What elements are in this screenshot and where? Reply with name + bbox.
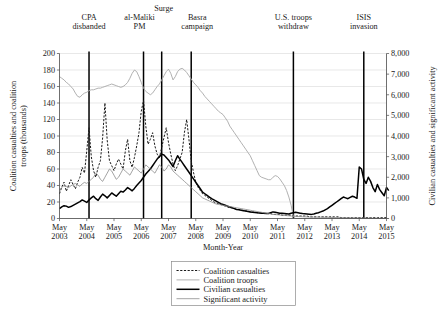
y-tick-label-left: 120 <box>43 115 55 124</box>
y-tick-label-left: 180 <box>43 66 55 75</box>
event-label-surge: Surge <box>154 4 173 13</box>
y-tick-label-left: 20 <box>47 198 55 207</box>
y-tick-label-left: 140 <box>43 99 55 108</box>
x-tick-label-month: May <box>79 223 95 232</box>
y-tick-label-right: 4,000 <box>391 132 409 141</box>
event-label-cpa-disbanded: disbanded <box>72 22 105 31</box>
x-tick-label-year: 2012 <box>297 232 313 241</box>
y-tick-label-right: 6,000 <box>391 91 409 100</box>
event-label-al-maliki-pm: PM <box>134 22 147 31</box>
figure-container: 020406080100120140160180200 01,0002,0003… <box>0 0 447 333</box>
legend-label-civilian-casualties: Civilian casualties <box>204 285 266 294</box>
x-tick-label-year: 2008 <box>188 232 204 241</box>
y-tick-label-left: 100 <box>43 132 55 141</box>
y-tick-label-left: 160 <box>43 82 55 91</box>
event-label-isis-invasion: invasion <box>350 22 378 31</box>
y-tick-label-right: 1,000 <box>391 194 409 203</box>
chart-canvas: 020406080100120140160180200 01,0002,0003… <box>0 0 447 333</box>
x-tick-label-month: May <box>215 223 231 232</box>
y-tick-label-left: 60 <box>47 165 55 174</box>
x-tick-label-month: May <box>324 223 340 232</box>
event-label-isis-invasion: ISIS <box>357 13 372 22</box>
event-label-basra-campaign: campaign <box>181 22 213 31</box>
x-tick-label-month: May <box>106 223 122 232</box>
y-axis-right-title: Civilian casualties and significant acti… <box>428 66 437 206</box>
y-tick-label-right: 2,000 <box>391 173 409 182</box>
y-tick-label-right: 5,000 <box>391 111 409 120</box>
event-label-cpa-disbanded: CPA <box>81 13 96 22</box>
x-tick-label-month: May <box>52 223 68 232</box>
x-tick-label-month: May <box>134 223 150 232</box>
y-tick-label-right: 7,000 <box>391 70 409 79</box>
x-tick-label-month: May <box>243 223 259 232</box>
x-tick-label-month: May <box>188 223 204 232</box>
legend-label-significant-activity: Significant activity <box>204 295 269 304</box>
y-tick-label-right: 8,000 <box>391 49 409 58</box>
x-axis-title: Month-Year <box>203 243 243 252</box>
y-axis-left-title-line2: troops (thousands) <box>19 105 28 167</box>
y-tick-label-right: 3,000 <box>391 153 409 162</box>
x-tick-label-month: May <box>161 223 177 232</box>
x-tick-label-month: May <box>270 223 286 232</box>
event-label-u-s-troops-withdraw: withdraw <box>278 22 309 31</box>
x-tick-label-year: 2005 <box>106 232 122 241</box>
y-tick-label-left: 80 <box>47 148 55 157</box>
x-tick-label-year: 2009 <box>215 232 231 241</box>
x-tick-label-year: 2013 <box>324 232 340 241</box>
y-tick-label-left: 200 <box>43 49 55 58</box>
event-label-u-s-troops-withdraw: U.S. troops <box>275 13 312 22</box>
x-tick-label-year: 2006 <box>133 232 149 241</box>
x-tick-label-year: 2003 <box>51 232 67 241</box>
x-tick-label-year: 2014 <box>351 232 367 241</box>
event-label-basra-campaign: Basra <box>188 13 207 22</box>
x-tick-label-year: 2010 <box>242 232 258 241</box>
chart-legend: Coalition casualtiesCoalition troopsCivi… <box>172 262 296 306</box>
x-tick-label-year: 2004 <box>79 232 95 241</box>
x-tick-label-year: 2011 <box>269 232 285 241</box>
x-tick-label-month: May <box>297 223 313 232</box>
legend-label-coalition-troops: Coalition troops <box>204 276 258 285</box>
event-label-al-maliki-pm: al-Maliki <box>124 13 155 22</box>
x-tick-label-year: 2007 <box>160 232 176 241</box>
legend-label-coalition-casualties: Coalition casualties <box>204 267 270 276</box>
y-axis-left-title-line1: Coalition casualties and coalition <box>9 80 18 191</box>
x-tick-label-year: 2015 <box>378 232 394 241</box>
x-tick-label-month: May <box>379 223 395 232</box>
y-tick-label-left: 40 <box>47 181 55 190</box>
x-tick-label-month: May <box>352 223 368 232</box>
